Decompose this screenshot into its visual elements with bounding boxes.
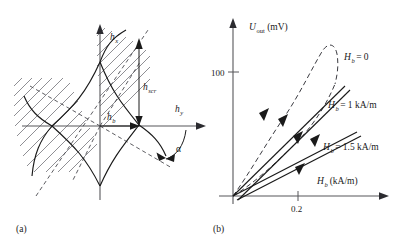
label-hscr: hscr bbox=[143, 82, 157, 94]
curve-hb-1-lower-arrowhead bbox=[310, 134, 320, 147]
axis-label-hb: Hb(kA/m) bbox=[316, 176, 358, 188]
panel-b-axes bbox=[219, 18, 389, 204]
ytick-label-100: 100 bbox=[211, 68, 225, 78]
astroid-arc-bottom-right bbox=[100, 125, 139, 186]
xtick-label-0p2: 0.2 bbox=[291, 204, 302, 214]
curve-label-hb-0: Hb= 0 bbox=[343, 52, 369, 64]
figure-root: hx hy hscr hb α (a) bbox=[0, 0, 415, 245]
axis-x-arrowhead bbox=[379, 192, 389, 199]
curve-label-hb-1: Hb= 1 kA/m bbox=[327, 100, 377, 112]
axis-y-arrowhead bbox=[229, 18, 236, 28]
dashed-diagonal-upper-left bbox=[30, 86, 100, 126]
curve-label-hb-1p5: Hb= 1.5 kA/m bbox=[322, 142, 379, 154]
panel-b-transfer-curves: 100 0.2 Uout(mV) Hb(kA/m) Hb= 0 Hb= 1 kA… bbox=[205, 0, 415, 245]
curve-hb-1p5-arrowhead bbox=[295, 163, 305, 175]
curve-hb-0-upper-arrowhead bbox=[259, 108, 269, 121]
axis-hx-arrowhead bbox=[96, 24, 103, 34]
astroid-cusp-left-upper bbox=[24, 96, 52, 126]
label-hx: hx bbox=[110, 32, 118, 44]
label-hy: hy bbox=[175, 104, 183, 116]
panel-b-tag: (b) bbox=[213, 224, 224, 235]
axis-label-uout: Uout(mV) bbox=[249, 22, 288, 34]
astroid-arc-bottom-left bbox=[52, 126, 100, 186]
curve-hb-0-lower-arrowhead bbox=[278, 114, 288, 127]
panel-a-tag: (a) bbox=[16, 224, 27, 235]
unstable-region-hatching bbox=[14, 28, 160, 186]
panel-a-svg: hx hy hscr hb α (a) bbox=[0, 0, 210, 245]
dimension-annotations bbox=[100, 38, 186, 162]
construction-lines bbox=[30, 30, 172, 196]
hscr-arrowhead-up bbox=[135, 38, 142, 49]
curve-hb-0 bbox=[233, 45, 338, 196]
panel-b-svg: 100 0.2 Uout(mV) Hb(kA/m) Hb= 0 Hb= 1 kA… bbox=[205, 0, 415, 245]
panel-a-astroid: hx hy hscr hb α (a) bbox=[0, 0, 210, 245]
alpha-arc-arrowhead bbox=[166, 154, 175, 162]
label-alpha: α bbox=[176, 144, 181, 154]
